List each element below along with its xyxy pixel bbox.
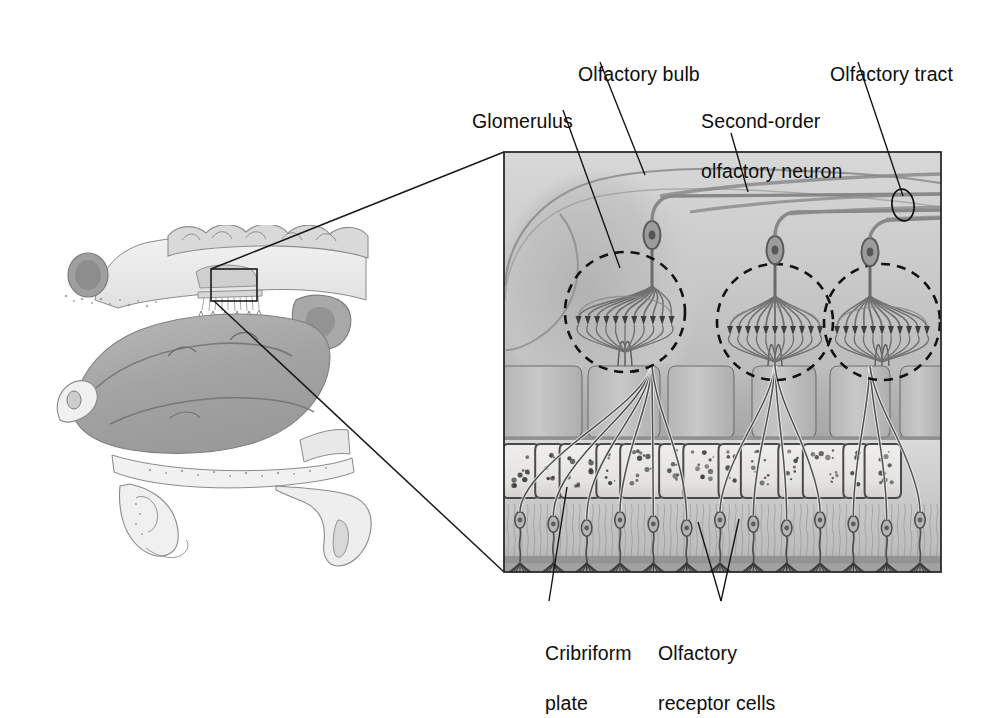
striation: [546, 504, 547, 558]
olfactory-receptor-cell: [537, 366, 652, 575]
striation: [735, 504, 736, 558]
olfactory-receptor-cell: [870, 366, 904, 575]
striation: [774, 504, 775, 558]
striation: [923, 504, 924, 558]
striation: [865, 504, 866, 558]
striation: [832, 504, 833, 558]
olfactory-receptor-cell: [703, 366, 775, 575]
callout-ray-top: [211, 152, 504, 269]
sphenoid-sinus: [292, 295, 350, 349]
lamina-columns: [504, 366, 942, 438]
striation: [683, 504, 684, 558]
striation: [917, 504, 918, 558]
label-second-order-line-2: olfactory neuron: [701, 160, 842, 182]
striation: [800, 504, 801, 558]
olfactory-receptor-cell: [737, 366, 775, 575]
sagittal-head-section: [57, 224, 371, 566]
cribriform-bone-block: [843, 444, 868, 498]
epithelium-striations: [507, 504, 937, 558]
cribriform-bone-block: [535, 444, 563, 498]
striation: [618, 504, 619, 558]
striation: [514, 504, 515, 558]
label-olfactory-receptor-cells: Olfactory receptor cells: [636, 616, 775, 718]
cribriform-bone-block: [683, 444, 722, 498]
striation: [566, 504, 567, 558]
olfactory-receptor-cell: [870, 366, 937, 575]
striation: [780, 504, 781, 558]
olfactory-receptor-cell: [570, 366, 652, 575]
label-olfactory-tract-line-1: Olfactory tract: [830, 63, 953, 85]
striation: [806, 504, 807, 558]
striation: [709, 504, 710, 558]
nasal-cavity-turbinates: [73, 314, 330, 453]
striation: [728, 504, 729, 558]
tongue: [120, 484, 188, 558]
olfactory-receptor-cell: [837, 366, 871, 575]
soft-palate: [276, 486, 371, 566]
striation: [676, 504, 677, 558]
striation: [715, 504, 716, 558]
striation: [910, 504, 911, 558]
striation: [741, 504, 742, 558]
striation: [761, 504, 762, 558]
striation: [891, 504, 892, 558]
label-olfactory-bulb-line-1: Olfactory bulb: [578, 63, 700, 85]
cribriform-bone-block: [596, 444, 624, 498]
striation: [624, 504, 625, 558]
striation: [845, 504, 846, 558]
striation: [930, 504, 931, 558]
striation: [533, 504, 534, 558]
striation: [572, 504, 573, 558]
cribriform-bone-block: [778, 444, 806, 498]
striation: [767, 504, 768, 558]
striation: [826, 504, 827, 558]
striation: [540, 504, 541, 558]
striation: [507, 504, 508, 558]
glomerulus-2: [717, 262, 833, 380]
striation: [520, 504, 521, 558]
striation: [793, 504, 794, 558]
leader-receptors-left: [698, 522, 721, 601]
olfactory-receptor-cells: [503, 366, 937, 575]
olfactory-receptor-cell: [652, 366, 703, 575]
label-receptor-cells-line-1: Olfactory: [658, 642, 737, 664]
cribriform-bone-block: [741, 444, 782, 498]
glomerulus-1: [565, 247, 685, 372]
striation: [650, 504, 651, 558]
cribriform-bone-block: [865, 444, 901, 498]
striation: [592, 504, 593, 558]
striation: [663, 504, 664, 558]
striation: [819, 504, 820, 558]
olfactory-receptor-cell: [775, 366, 837, 575]
label-olfactory-tract: Olfactory tract: [808, 37, 953, 112]
label-cribriform-plate-line-2: plate: [545, 692, 588, 714]
label-second-order-line-1: Second-order: [701, 110, 820, 132]
striation: [897, 504, 898, 558]
callout-rays: [211, 152, 504, 572]
striation: [904, 504, 905, 558]
striation: [884, 504, 885, 558]
glomerulus-3: [824, 264, 940, 380]
nasopharynx: [300, 429, 350, 462]
striation: [787, 504, 788, 558]
striation: [553, 504, 554, 558]
striation: [657, 504, 658, 558]
olfactory-receptor-cell: [603, 366, 652, 575]
striation: [871, 504, 872, 558]
label-glomerulus: Glomerulus: [450, 84, 573, 159]
glomerulus-1-boundary: [565, 252, 685, 372]
olfactory-tract-marker: [890, 188, 916, 223]
label-receptor-cells-line-2: receptor cells: [658, 692, 775, 714]
striation: [631, 504, 632, 558]
label-cribriform-plate-line-1: Cribriform: [545, 642, 632, 664]
striation: [722, 504, 723, 558]
striation: [637, 504, 638, 558]
striation: [598, 504, 599, 558]
olfactory-receptor-cell: [770, 366, 804, 575]
striation: [611, 504, 612, 558]
olfactory-receptor-cell: [637, 366, 671, 575]
nostril: [57, 381, 97, 423]
glomerulus-2-boundary: [717, 264, 833, 380]
leader-cribriform: [549, 487, 567, 601]
